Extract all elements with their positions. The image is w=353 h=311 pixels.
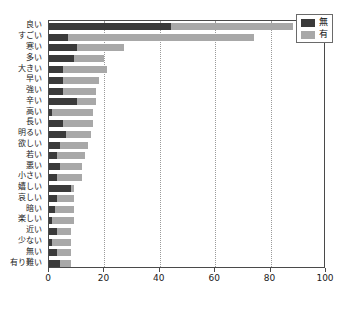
bar-segment-yuu bbox=[60, 142, 88, 149]
bar-segment-mu bbox=[49, 98, 77, 105]
chart-legend: 無有 bbox=[296, 14, 333, 43]
x-axis-tick bbox=[159, 268, 160, 272]
bar-segment-mu bbox=[49, 34, 68, 41]
legend-swatch-icon bbox=[301, 19, 315, 27]
x-axis-tick-label: 0 bbox=[45, 274, 51, 283]
y-axis-tick-label: 高い bbox=[26, 108, 42, 116]
bar-row bbox=[49, 23, 293, 30]
y-axis-tick-label: すごい bbox=[18, 32, 42, 40]
bar-row bbox=[49, 260, 71, 267]
x-axis-tick-label: 60 bbox=[208, 274, 219, 283]
bar-segment-mu bbox=[49, 249, 57, 256]
y-axis-tick-label: 辛い bbox=[26, 97, 42, 105]
x-axis-tick-label: 100 bbox=[316, 274, 333, 283]
bar-row bbox=[49, 77, 99, 84]
bar-row bbox=[49, 34, 254, 41]
y-axis-tick-label: 暗い bbox=[26, 205, 42, 213]
bar-segment-mu bbox=[49, 163, 60, 170]
y-axis-tick-label: 良い bbox=[26, 21, 42, 29]
bar-segment-yuu bbox=[63, 88, 96, 95]
y-axis-tick-label: 明るい bbox=[18, 129, 42, 137]
bar-segment-yuu bbox=[60, 163, 82, 170]
bar-segment-mu bbox=[49, 228, 57, 235]
bar-row bbox=[49, 152, 85, 159]
legend-label: 有 bbox=[319, 30, 328, 39]
x-axis-tick-label: 20 bbox=[98, 274, 109, 283]
x-axis-tick bbox=[48, 268, 49, 272]
x-axis-tick bbox=[103, 268, 104, 272]
bar-segment-mu bbox=[49, 131, 66, 138]
bar-segment-mu bbox=[49, 174, 57, 181]
bar-row bbox=[49, 44, 124, 51]
bar-segment-mu bbox=[49, 88, 63, 95]
bar-segment-mu bbox=[49, 44, 77, 51]
bar-row bbox=[49, 66, 107, 73]
bar-segment-mu bbox=[49, 142, 60, 149]
bar-segment-yuu bbox=[57, 152, 85, 159]
bar-segment-yuu bbox=[52, 217, 74, 224]
bar-segment-mu bbox=[49, 120, 63, 127]
y-axis-tick-label: 早い bbox=[26, 75, 42, 83]
y-axis-tick-label: 強い bbox=[26, 86, 42, 94]
legend-item: 有 bbox=[301, 30, 328, 39]
y-axis-tick-label: 長い bbox=[26, 118, 42, 126]
bar-segment-mu bbox=[49, 66, 63, 73]
bar-segment-yuu bbox=[77, 44, 124, 51]
bar-segment-yuu bbox=[63, 120, 93, 127]
bar-segment-yuu bbox=[57, 249, 71, 256]
bar-row bbox=[49, 109, 93, 116]
y-axis-tick-label: 寒い bbox=[26, 43, 42, 51]
bar-row bbox=[49, 239, 71, 246]
bar-row bbox=[49, 206, 74, 213]
legend-swatch-icon bbox=[301, 31, 315, 39]
bar-segment-yuu bbox=[60, 260, 71, 267]
bar-segment-yuu bbox=[52, 239, 71, 246]
bar-row bbox=[49, 163, 82, 170]
bar-segment-yuu bbox=[74, 55, 104, 62]
bar-segment-mu bbox=[49, 195, 57, 202]
y-axis-tick-label: 若い bbox=[26, 151, 42, 159]
y-axis-tick-label: 多い bbox=[26, 54, 42, 62]
bar-row bbox=[49, 55, 104, 62]
legend-label: 無 bbox=[319, 18, 328, 27]
y-axis-tick-label: 有り難い bbox=[10, 259, 42, 267]
bar-segment-yuu bbox=[68, 34, 254, 41]
bar-segment-yuu bbox=[77, 98, 96, 105]
bar-segment-yuu bbox=[171, 23, 293, 30]
bar-series-group bbox=[49, 21, 324, 267]
bar-segment-yuu bbox=[66, 131, 91, 138]
y-axis-tick-label: 悪い bbox=[26, 162, 42, 170]
bar-segment-yuu bbox=[63, 66, 107, 73]
bar-row bbox=[49, 120, 93, 127]
y-axis-tick-label: 大きい bbox=[18, 65, 42, 73]
x-axis-tick bbox=[270, 268, 271, 272]
bar-segment-yuu bbox=[57, 195, 74, 202]
bar-segment-yuu bbox=[52, 109, 94, 116]
bar-row bbox=[49, 185, 74, 192]
bar-row bbox=[49, 249, 71, 256]
bar-row bbox=[49, 142, 88, 149]
bar-segment-yuu bbox=[57, 228, 71, 235]
x-axis-tick bbox=[214, 268, 215, 272]
bar-row bbox=[49, 195, 74, 202]
bar-segment-yuu bbox=[63, 77, 99, 84]
bar-segment-yuu bbox=[71, 185, 74, 192]
bar-segment-mu bbox=[49, 260, 60, 267]
stacked-bar-chart: 良いすごい寒い多い大きい早い強い辛い高い長い明るい欲しい若い悪い小さい嬉しい哀し… bbox=[0, 0, 353, 311]
y-axis-tick-label: 小さい bbox=[18, 172, 42, 180]
x-axis-tick bbox=[325, 268, 326, 272]
bar-segment-yuu bbox=[55, 206, 74, 213]
x-axis-tick-label: 80 bbox=[264, 274, 275, 283]
y-axis-tick-label: 楽しい bbox=[18, 215, 42, 223]
y-axis-tick-label: 哀しい bbox=[18, 194, 42, 202]
bar-segment-mu bbox=[49, 77, 63, 84]
y-axis-tick-label: 近い bbox=[26, 226, 42, 234]
bar-segment-mu bbox=[49, 185, 71, 192]
y-axis-tick-label: 少ない bbox=[18, 237, 42, 245]
bar-row bbox=[49, 174, 82, 181]
bar-segment-mu bbox=[49, 152, 57, 159]
bar-segment-mu bbox=[49, 23, 171, 30]
x-axis-tick-label: 40 bbox=[153, 274, 164, 283]
bar-row bbox=[49, 98, 96, 105]
legend-item: 無 bbox=[301, 18, 328, 27]
